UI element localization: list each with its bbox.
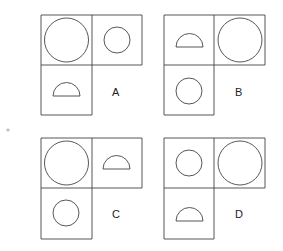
- option-label-a: A: [112, 86, 119, 98]
- semicircle-icon: [176, 208, 203, 222]
- large-circle-icon: [218, 18, 262, 62]
- option-c: [41, 138, 142, 239]
- l-grid: [41, 15, 142, 115]
- small-circle-icon: [176, 78, 202, 104]
- small-circle-icon: [53, 200, 79, 226]
- option-b: [164, 15, 265, 115]
- small-circle-icon: [176, 150, 202, 176]
- option-a: [41, 15, 142, 115]
- option-label-d: D: [235, 208, 243, 220]
- small-circle-icon: [104, 27, 130, 53]
- l-grid: [164, 138, 265, 239]
- option-label-c: C: [112, 208, 120, 220]
- dot-marker: [6, 128, 9, 131]
- large-circle-icon: [45, 141, 89, 185]
- large-circle-icon: [218, 141, 262, 185]
- semicircle-icon: [176, 34, 203, 48]
- large-circle-icon: [45, 18, 89, 62]
- l-grid: [41, 138, 142, 239]
- semicircle-icon: [103, 156, 130, 170]
- option-d: [164, 138, 265, 239]
- semicircle-icon: [53, 83, 80, 97]
- option-label-b: B: [235, 86, 242, 98]
